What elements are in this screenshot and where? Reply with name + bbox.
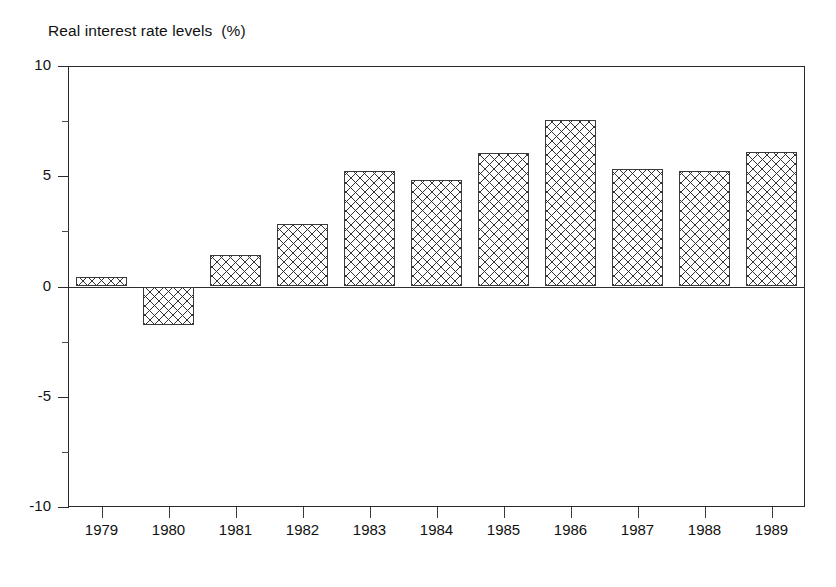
x-axis-label-1987: 1987 <box>603 521 673 538</box>
x-axis-label-1981: 1981 <box>201 521 271 538</box>
x-axis-label-1985: 1985 <box>469 521 539 538</box>
bar-1983 <box>344 171 395 287</box>
x-axis-label-1989: 1989 <box>737 521 807 538</box>
y-tick-5 <box>58 176 69 177</box>
x-axis-label-1982: 1982 <box>268 521 338 538</box>
x-tick-1981 <box>236 507 237 518</box>
x-axis-label-1979: 1979 <box>67 521 137 538</box>
bar-1979 <box>76 277 127 287</box>
y-tick-10 <box>58 66 69 67</box>
y-minor-tick <box>62 452 69 453</box>
x-tick-1979 <box>102 507 103 518</box>
x-tick-1980 <box>169 507 170 518</box>
y-tick-0 <box>58 287 69 288</box>
y-axis-label-10: 10 <box>5 56 51 73</box>
y-axis-label-5: 5 <box>5 166 51 183</box>
plot-area <box>68 66 805 507</box>
y-minor-tick <box>62 342 69 343</box>
y-axis-label--5: -5 <box>5 387 51 404</box>
x-axis-label-1980: 1980 <box>134 521 204 538</box>
x-tick-1986 <box>571 507 572 518</box>
bar-1982 <box>277 224 328 287</box>
x-axis-label-1988: 1988 <box>670 521 740 538</box>
chart-figure: Real interest rate levels (%) 1050-5-101… <box>0 0 836 587</box>
bar-1988 <box>679 171 730 287</box>
bar-1980 <box>143 287 194 326</box>
x-tick-1984 <box>437 507 438 518</box>
bar-1985 <box>478 153 529 286</box>
y-minor-tick <box>62 121 69 122</box>
chart-title: Real interest rate levels (%) <box>48 22 246 40</box>
bar-1989 <box>746 152 797 287</box>
x-axis-label-1983: 1983 <box>335 521 405 538</box>
y-tick--10 <box>58 507 69 508</box>
y-axis-label-0: 0 <box>5 277 51 294</box>
bar-1986 <box>545 120 596 286</box>
x-tick-1983 <box>370 507 371 518</box>
y-axis-label--10: -10 <box>5 497 51 514</box>
x-tick-1989 <box>772 507 773 518</box>
bar-1984 <box>411 180 462 287</box>
y-minor-tick <box>62 231 69 232</box>
x-axis-label-1984: 1984 <box>402 521 472 538</box>
bar-1987 <box>612 169 663 287</box>
x-tick-1982 <box>303 507 304 518</box>
x-tick-1985 <box>504 507 505 518</box>
x-tick-1988 <box>705 507 706 518</box>
x-axis-label-1986: 1986 <box>536 521 606 538</box>
x-tick-1987 <box>638 507 639 518</box>
bar-1981 <box>210 255 261 287</box>
y-tick--5 <box>58 397 69 398</box>
